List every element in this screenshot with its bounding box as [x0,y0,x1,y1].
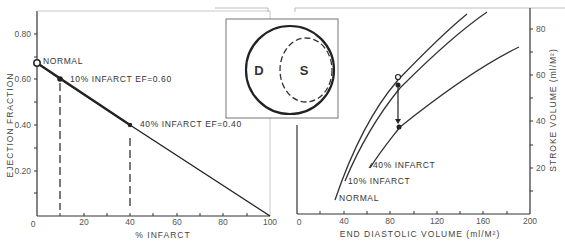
curve-label-40pct: 40% INFARCT [373,160,435,170]
x-tick-80: 80 [218,217,228,227]
normal-label: NORMAL [43,56,83,66]
x-tick-60: 60 [172,217,182,227]
sv-normal-point [396,75,401,80]
edv-tick-0: 0 [297,217,302,227]
curve-label-normal: NORMAL [339,193,379,203]
y-tick-080: 0.80 [14,29,31,39]
left-y-axis-title: EJECTION FRACTION [5,73,15,178]
sv-tick-80: 80 [536,24,546,34]
y-tick-060: 0.60 [14,74,31,84]
sv-tick-20: 20 [536,163,546,173]
edv-tick-200: 200 [523,216,537,226]
x-tick-20: 20 [79,217,89,227]
arrow-head [395,119,401,124]
sv-tick-60: 60 [536,70,546,80]
curve-40pct [370,47,519,168]
infarct-40-label: 40% INFARCT EF=0.40 [140,119,242,129]
sv-40pct-point [397,125,402,130]
curve-10pct [345,12,487,181]
edv-tick-40: 40 [339,216,349,226]
right-x-axis-title: END DIASTOLIC VOLUME (ml/M²) [340,229,501,239]
y-tick-020: 0.20 [14,166,31,176]
figure: 0.80 0.60 0.40 0.20 0 20 40 60 80 100 % … [0,0,565,242]
x-tick-100: 100 [263,217,277,227]
edv-tick-160: 160 [476,216,490,226]
x-tick-0: 0 [31,219,36,229]
infarct-10-label: 10% INFARCT EF=0.60 [70,74,172,84]
systole-letter: S [300,63,309,78]
bracket-right [295,8,565,12]
diastole-letter: D [254,63,263,78]
infarct-10-point [57,76,63,82]
edv-tick-80: 80 [385,216,395,226]
inset-frame [226,19,338,118]
right-y-axis-title: STROKE VOLUME (ml/M²) [548,48,558,171]
edv-tick-120: 120 [430,216,444,226]
left-x-axis-title: % INFARCT [135,230,190,240]
ef-line-thick [37,63,130,125]
x-tick-40: 40 [125,217,135,227]
sv-10pct-point [396,83,401,88]
curve-label-10pct: 10% INFARCT [348,176,410,186]
sv-tick-40: 40 [536,116,546,126]
normal-point [34,60,40,66]
infarct-40-point [128,123,132,127]
curve-normal [335,14,467,200]
y-tick-040: 0.40 [14,120,31,130]
